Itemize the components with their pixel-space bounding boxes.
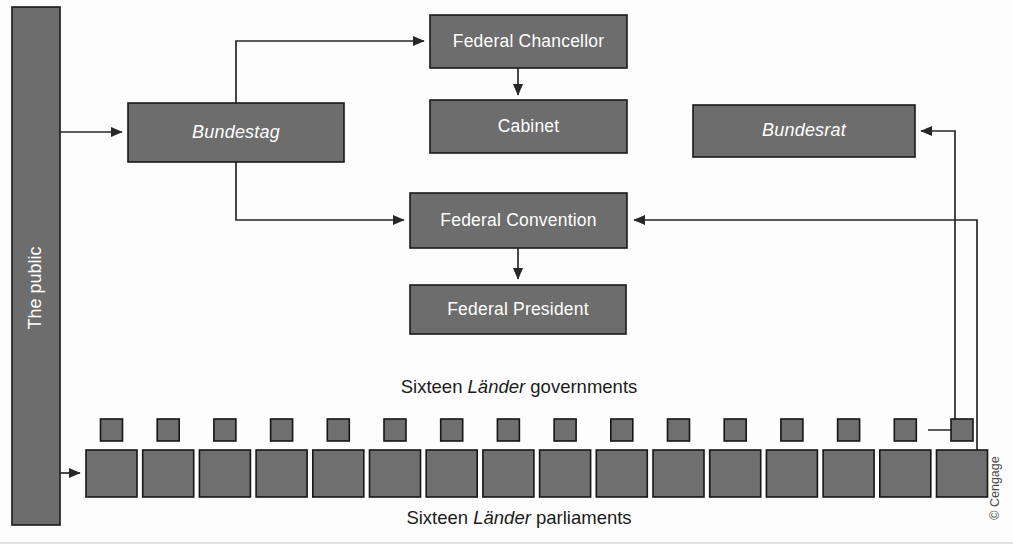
connector-bundestag-to-convention	[236, 162, 404, 220]
the-public-label: The public	[25, 246, 45, 329]
lander-parliament-square[interactable]	[143, 450, 194, 497]
lander-government-square[interactable]	[101, 419, 123, 441]
box-bundestag[interactable]: Bundestag	[128, 103, 344, 162]
diagram-canvas: The public Bundestag Federal Chancellor	[0, 0, 1013, 544]
lander-parliament-square[interactable]	[937, 450, 988, 497]
lander-parliament-square[interactable]	[823, 450, 874, 497]
federal-president-label: Federal President	[447, 299, 589, 319]
lander-government-square[interactable]	[668, 419, 690, 441]
bundestag-label: Bundestag	[192, 122, 280, 142]
connector-governments-to-bundesrat	[921, 131, 955, 430]
lander-government-square[interactable]	[327, 419, 349, 441]
lander-government-square[interactable]	[384, 419, 406, 441]
lander-parliament-square[interactable]	[653, 450, 704, 497]
lander-parliament-square[interactable]	[540, 450, 591, 497]
lander-parliament-square[interactable]	[86, 450, 137, 497]
lander-parliament-square[interactable]	[256, 450, 307, 497]
parliaments-prefix: Sixteen	[406, 507, 473, 528]
lander-government-square[interactable]	[441, 419, 463, 441]
governments-italic: Länder	[468, 376, 526, 397]
box-federal-convention[interactable]: Federal Convention	[410, 193, 627, 248]
federal-chancellor-label: Federal Chancellor	[453, 31, 604, 51]
lander-parliament-square[interactable]	[370, 450, 421, 497]
lander-parliament-square[interactable]	[766, 450, 817, 497]
box-cabinet[interactable]: Cabinet	[430, 100, 627, 153]
lander-government-square[interactable]	[554, 419, 576, 441]
governments-prefix: Sixteen	[401, 376, 468, 397]
lander-parliament-square[interactable]	[596, 450, 647, 497]
copyright-credit: © Cengage	[988, 456, 1002, 519]
lander-parliament-square[interactable]	[199, 450, 250, 497]
box-bundesrat[interactable]: Bundesrat	[693, 105, 915, 157]
cabinet-label: Cabinet	[498, 116, 560, 136]
connector-bundestag-to-chancellor	[236, 41, 424, 103]
political-system-diagram: The public Bundestag Federal Chancellor	[0, 0, 1013, 544]
parliaments-suffix: parliaments	[531, 507, 632, 528]
lander-parliament-square[interactable]	[710, 450, 761, 497]
box-federal-president[interactable]: Federal President	[410, 285, 626, 334]
lander-governments-label: Sixteen Länder governments	[401, 376, 638, 397]
lander-government-square[interactable]	[214, 419, 236, 441]
lander-government-square[interactable]	[951, 419, 973, 441]
lander-government-square[interactable]	[781, 419, 803, 441]
lander-parliament-square[interactable]	[426, 450, 477, 497]
bundesrat-label: Bundesrat	[762, 120, 847, 140]
lander-government-square[interactable]	[894, 419, 916, 441]
lander-parliament-square[interactable]	[483, 450, 534, 497]
lander-government-square[interactable]	[271, 419, 293, 441]
lander-government-square[interactable]	[724, 419, 746, 441]
parliaments-italic: Länder	[473, 507, 531, 528]
lander-parliament-square[interactable]	[880, 450, 931, 497]
lander-government-square[interactable]	[497, 419, 519, 441]
lander-parliament-square[interactable]	[313, 450, 364, 497]
lander-government-square[interactable]	[838, 419, 860, 441]
box-federal-chancellor[interactable]: Federal Chancellor	[430, 15, 627, 68]
federal-convention-label: Federal Convention	[440, 210, 596, 230]
lander-parliaments-label: Sixteen Länder parliaments	[406, 507, 631, 528]
lander-government-square[interactable]	[611, 419, 633, 441]
lander-parliament-squares	[86, 450, 988, 497]
the-public-bar: The public	[12, 7, 60, 525]
lander-government-squares	[101, 419, 974, 441]
governments-suffix: governments	[525, 376, 637, 397]
lander-government-square[interactable]	[157, 419, 179, 441]
